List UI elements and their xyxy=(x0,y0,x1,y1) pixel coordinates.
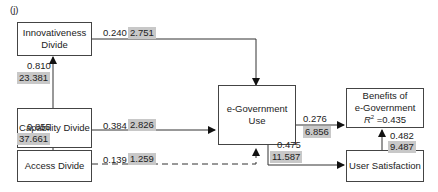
tval-satisfaction-to-benefits: 9.487 xyxy=(388,141,416,153)
node-user-satisfaction: User Satisfaction xyxy=(346,150,424,182)
tval-cap-to-innov: 23.381 xyxy=(17,72,50,84)
node-e-government-use: e-Government Use xyxy=(218,85,296,145)
tval-use-to-satisfaction: 11.587 xyxy=(270,151,302,163)
tval-cap-to-use: 2.826 xyxy=(128,119,156,131)
node-label: Innovativeness xyxy=(23,27,86,39)
tval-innov-to-use: 2.751 xyxy=(128,27,156,39)
panel-label: (j) xyxy=(10,4,18,15)
coef-satisfaction-to-benefits: 0.482 xyxy=(390,130,414,141)
coef-cap-to-use: 0.384 xyxy=(103,120,127,131)
coef-access-to-use: 0.139 xyxy=(103,154,127,165)
coef-cap-to-innov: 0.810 xyxy=(27,60,51,71)
node-label: Divide xyxy=(41,39,67,51)
coef-access-to-cap: 0.855 xyxy=(27,121,51,132)
coef-innov-to-use: 0.240 xyxy=(103,27,127,38)
tval-access-to-use: 1.259 xyxy=(128,153,156,165)
node-access-divide: Access Divide xyxy=(17,150,92,182)
tval-access-to-cap: 37.661 xyxy=(17,133,50,145)
tval-use-to-benefits: 6.856 xyxy=(303,126,331,138)
node-innovativeness-divide: Innovativeness Divide xyxy=(17,22,92,56)
node-label: e-Government Use xyxy=(219,103,295,127)
r-squared: R2 =0.435 xyxy=(364,114,406,126)
node-label: User Satisfaction xyxy=(349,160,421,172)
node-label: Benefits of xyxy=(363,90,408,102)
node-benefits-of-e-government: Benefits of e-Government R2 =0.435 xyxy=(346,88,424,128)
node-label: Access Divide xyxy=(25,160,85,172)
coef-use-to-benefits: 0.276 xyxy=(303,113,327,124)
coef-use-to-satisfaction: 0.475 xyxy=(277,139,301,150)
node-label: e-Government xyxy=(355,102,416,114)
